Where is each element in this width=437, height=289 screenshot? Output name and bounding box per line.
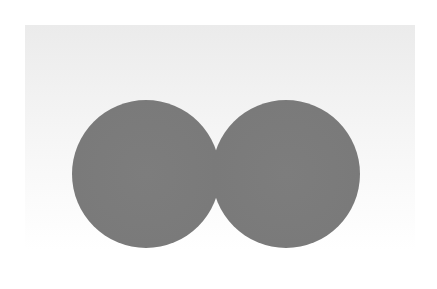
- right-circle: [212, 100, 360, 248]
- left-circle: [72, 100, 220, 248]
